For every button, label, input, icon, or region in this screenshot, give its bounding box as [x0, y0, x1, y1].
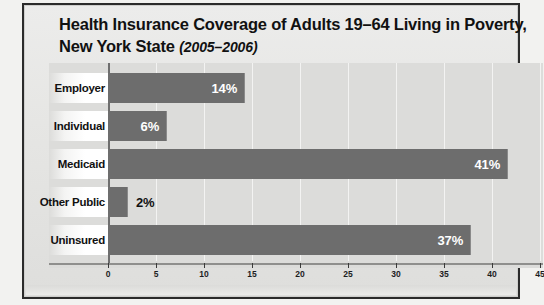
chart-title-block: Health Insurance Coverage of Adults 19–6… [59, 14, 537, 57]
x-tick-35 [444, 263, 445, 268]
bar-row-uninsured: 37% Uninsured [49, 225, 543, 255]
bar-medicaid[interactable]: 41% [108, 149, 508, 179]
x-tick-label-10: 10 [199, 269, 208, 279]
x-tick-15 [252, 263, 253, 268]
x-axis-line [49, 263, 543, 265]
category-band-employer: Employer [49, 73, 109, 103]
bar-value-uninsured: 37% [438, 233, 463, 248]
bar-row-employer: 14% Employer [49, 73, 543, 103]
chart-title-period: (2005–2006) [179, 39, 257, 55]
x-tick-30 [396, 263, 397, 268]
x-tick-label-30: 30 [391, 269, 400, 279]
x-tick-0 [108, 263, 109, 268]
x-tick-label-20: 20 [295, 269, 304, 279]
bar-individual[interactable]: 6% [108, 111, 167, 141]
category-label-other-public: Other Public [40, 196, 105, 208]
bar-value-employer: 14% [212, 81, 237, 96]
category-label-uninsured: Uninsured [50, 234, 105, 246]
chart-screenshot: Health Insurance Coverage of Adults 19–6… [0, 0, 544, 305]
category-label-individual: Individual [54, 120, 105, 132]
x-tick-label-15: 15 [247, 269, 256, 279]
category-band-uninsured: Uninsured [49, 225, 109, 255]
x-tick-45 [540, 263, 541, 268]
chart-title-line-2: New York State (2005–2006) [59, 36, 537, 57]
x-tick-label-0: 0 [106, 269, 111, 279]
chart-title-line-1: Health Insurance Coverage of Adults 19–6… [59, 14, 537, 34]
bar-value-individual: 6% [141, 119, 159, 134]
x-tick-5 [156, 263, 157, 268]
bar-row-individual: 6% Individual [49, 111, 543, 141]
bar-employer[interactable]: 14% [108, 73, 245, 103]
figure-bottom-margin [26, 285, 516, 295]
chart-title-state: New York State [59, 37, 175, 55]
bar-row-other-public: 2% Other Public [49, 187, 543, 217]
x-tick-40 [492, 263, 493, 268]
bar-row-medicaid: 41% Medicaid [49, 149, 543, 179]
x-tick-20 [300, 263, 301, 268]
category-band-individual: Individual [49, 111, 109, 141]
plot-area: 14% Employer 6% Individual [49, 63, 543, 268]
category-label-employer: Employer [55, 82, 105, 94]
bar-value-other-public: 2% [136, 195, 154, 210]
category-label-medicaid: Medicaid [58, 158, 105, 170]
x-tick-25 [348, 263, 349, 268]
y-axis-line [108, 63, 110, 263]
category-band-medicaid: Medicaid [49, 149, 109, 179]
x-tick-label-35: 35 [439, 269, 448, 279]
bar-other-public[interactable] [108, 187, 128, 217]
category-band-other-public: Other Public [49, 187, 109, 217]
x-tick-label-5: 5 [154, 269, 159, 279]
x-tick-label-40: 40 [487, 269, 496, 279]
figure-frame: Health Insurance Coverage of Adults 19–6… [22, 3, 520, 299]
bar-value-medicaid: 41% [475, 157, 500, 172]
x-tick-10 [204, 263, 205, 268]
figure-inner-panel: Health Insurance Coverage of Adults 19–6… [24, 5, 518, 297]
x-tick-label-45: 45 [535, 269, 544, 279]
x-tick-label-25: 25 [343, 269, 352, 279]
bar-uninsured[interactable]: 37% [108, 225, 471, 255]
